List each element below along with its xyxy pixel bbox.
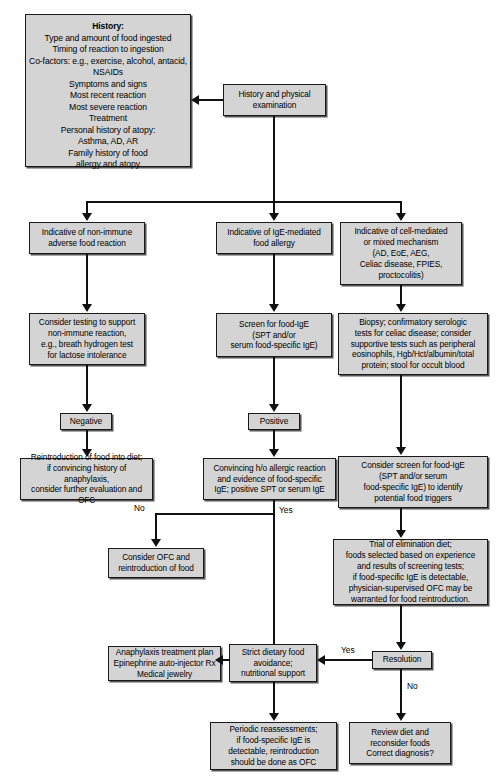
node-reintroduction-text: Reintroduction of food into diet; if con… (24, 452, 149, 507)
arrowhead-nonimmune (82, 213, 92, 221)
node-history: History: Type and amount of food ingeste… (25, 14, 191, 167)
node-consider-testing-nonimmune: Consider testing to support non-immune r… (29, 313, 145, 365)
node-strict-dietary-avoidance: Strict dietary food avoidance; nutrition… (229, 644, 317, 682)
edge-no-branch-horizontal (155, 513, 274, 515)
node-periodic-reassessments: Periodic reassessments; if food-specific… (210, 722, 337, 770)
flowchart-canvas: History: Type and amount of food ingeste… (0, 0, 502, 780)
node-indicative-cell-mediated: Indicative of cell-mediated or mixed mec… (340, 222, 462, 285)
node-review-diet-reconsider-foods: Review diet and reconsider foods Correct… (349, 722, 451, 764)
arrowhead-resolution (396, 642, 406, 650)
edge-elimination-to-resolution (400, 605, 402, 643)
node-indicative-non-immune: Indicative of non-immune adverse food re… (29, 222, 145, 254)
edge-negative-down (86, 430, 88, 450)
edge-yes-center-down (273, 500, 275, 644)
edge-cellmediated-to-biopsy (400, 285, 402, 305)
arrowhead-positive (269, 404, 279, 412)
edge-distribution-bar (86, 201, 401, 203)
edge-strict-to-anaphylaxis (222, 659, 230, 661)
node-anaphylaxis-text: Anaphylaxis treatment plan Epinephrine a… (114, 647, 216, 680)
node-ige-text: Indicative of IgE-mediated food allergy (227, 227, 320, 249)
node-indicative-ige-mediated: Indicative of IgE-mediated food allergy (216, 222, 332, 254)
edge-biopsy-to-consider-screen (400, 375, 402, 448)
node-reintroduction-of-food: Reintroduction of food into diet; if con… (20, 458, 153, 500)
edge-label-yes-right: Yes (340, 646, 356, 654)
node-negative-text: Negative (70, 416, 102, 427)
node-history-and-physical-examination: History and physical examination (223, 84, 326, 116)
arrowhead-to-history (191, 95, 199, 105)
node-screen-ige-text: Screen for food-IgE (SPT and/or serum fo… (230, 319, 317, 352)
node-trial-elimination-diet: Trial of elimination diet; foods selecte… (333, 539, 488, 605)
edge-resolution-to-review (400, 669, 402, 714)
edge-no-branch-down (155, 513, 157, 540)
node-cellmediated-text: Indicative of cell-mediated or mixed mec… (354, 226, 447, 281)
node-positive: Positive (248, 413, 300, 430)
node-consider-screen-text: Consider screen for food-IgE (SPT and/or… (361, 460, 464, 504)
node-convincing-history-allergic-reaction: Convincing h/o allergic reaction and evi… (203, 458, 336, 500)
node-nonimmune-text: Indicative of non-immune adverse food re… (42, 227, 132, 249)
node-anaphylaxis-treatment-plan: Anaphylaxis treatment plan Epinephrine a… (108, 646, 221, 681)
node-strict-avoidance-text: Strict dietary food avoidance; nutrition… (241, 647, 305, 680)
node-consider-testing-text: Consider testing to support non-immune r… (39, 317, 135, 361)
node-negative: Negative (60, 413, 112, 430)
edge-nonimmune-to-testing (86, 254, 88, 305)
arrowhead-biopsy (396, 304, 406, 312)
arrowhead-negative (82, 404, 92, 412)
node-convincing-text: Convincing h/o allergic reaction and evi… (213, 463, 325, 496)
edge-screen-to-elimination (400, 508, 402, 531)
node-consider-screen-food-ige: Consider screen for food-IgE (SPT and/or… (338, 456, 488, 508)
node-start-text: History and physical examination (238, 89, 310, 111)
node-consider-ofc-reintroduction: Consider OFC and reintroduction of food (108, 548, 204, 578)
node-biopsy-text: Biopsy; confirmatory serologic tests for… (351, 317, 476, 372)
edge-start-to-history (199, 99, 224, 101)
arrowhead-cellmediated (396, 213, 406, 221)
arrowhead-convincing (269, 449, 279, 457)
arrowhead-anaphylaxis (215, 655, 223, 665)
node-positive-text: Positive (260, 416, 289, 427)
arrowhead-consider-testing (82, 304, 92, 312)
edge-label-yes-center: Yes (278, 506, 294, 514)
arrowhead-consider-ofc (151, 539, 161, 547)
edge-testing-to-negative (86, 365, 88, 405)
node-history-text: History: Type and amount of food ingeste… (29, 21, 187, 171)
node-resolution-text: Resolution (383, 654, 422, 665)
arrowhead-ige (269, 213, 279, 221)
arrowhead-consider-screen (396, 447, 406, 455)
node-biopsy-serologic-tests: Biopsy; confirmatory serologic tests for… (338, 313, 488, 375)
node-periodic-text: Periodic reassessments; if food-specific… (228, 724, 319, 768)
edge-label-no-left: No (133, 504, 146, 512)
arrowhead-periodic (269, 713, 279, 721)
node-resolution: Resolution (372, 651, 432, 669)
edge-strict-to-periodic (273, 682, 275, 714)
arrowhead-screen-ige (269, 304, 279, 312)
edge-positive-down (273, 430, 275, 450)
edge-label-no-bottom: No (406, 682, 419, 690)
node-screen-for-food-ige: Screen for food-IgE (SPT and/or serum fo… (216, 313, 332, 357)
node-consider-ofc-text: Consider OFC and reintroduction of food (118, 552, 194, 574)
edge-screen-to-positive (273, 357, 275, 405)
node-review-diet-text: Review diet and reconsider foods Correct… (366, 727, 433, 760)
arrowhead-elimination-diet (396, 530, 406, 538)
edge-ige-to-screen (273, 254, 275, 305)
arrowhead-strict-avoidance (317, 655, 325, 665)
arrowhead-review-diet (396, 713, 406, 721)
edge-resolution-to-strict (325, 659, 373, 661)
node-elimination-text: Trial of elimination diet; foods selecte… (346, 539, 475, 605)
edge-start-down (273, 116, 275, 202)
